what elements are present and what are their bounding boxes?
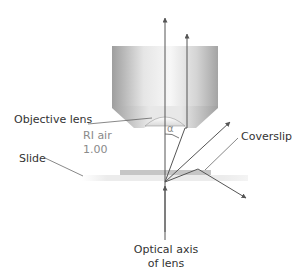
slide-leader: [45, 158, 83, 176]
ri-air-label: RI air: [83, 129, 112, 142]
slide-label: Slide: [19, 152, 46, 165]
coverslip-label: Coverslip: [241, 130, 292, 143]
optical-axis-label-line1: Optical axis: [134, 243, 198, 256]
objective-lens-label: Objective lens: [14, 113, 92, 126]
optical-axis-label-line2: of lens: [148, 257, 185, 270]
ri-air-value: 1.00: [83, 143, 108, 156]
coverslip-leader: [205, 138, 238, 170]
alpha-label: α: [167, 122, 174, 135]
